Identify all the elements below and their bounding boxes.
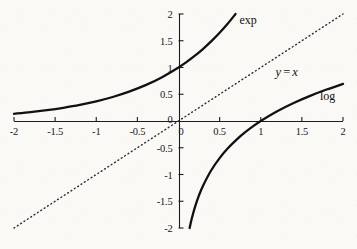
x-tick-label: 0.5	[213, 126, 226, 137]
y-tick-label: 2	[167, 9, 172, 20]
y-tick-label: -2	[164, 223, 172, 234]
x-tick-label: -1.5	[47, 126, 63, 137]
x-tick-label: -2	[10, 126, 18, 137]
identity-label: y=x	[276, 65, 298, 80]
x-tick-label: -1	[92, 126, 100, 137]
curve-log	[190, 84, 343, 228]
y-tick-label: 1	[167, 62, 172, 73]
exp-label: exp	[239, 13, 256, 28]
x-tick-label: 2	[340, 126, 345, 137]
x-tick-label: -0.5	[129, 126, 145, 137]
y-tick-label: 0.5	[160, 89, 173, 100]
y-tick-label: -0.5	[157, 142, 173, 153]
origin-label: 0	[167, 114, 172, 125]
y-tick-label: 1.5	[160, 35, 173, 46]
plot-canvas	[0, 0, 357, 249]
log-label: log	[320, 89, 335, 104]
x-tick-label: 1	[258, 126, 263, 137]
figure-exp-log-plot: -2-1.5-1-0.500.511.52 -2-1.5-1-0.50.511.…	[0, 0, 357, 249]
y-tick-label: -1	[164, 169, 172, 180]
x-tick-label: 1.5	[296, 126, 309, 137]
x-tick-label: 0	[178, 126, 183, 137]
y-tick-label: -1.5	[157, 196, 173, 207]
curve-exp	[14, 14, 236, 114]
identity-label-equals: =	[281, 65, 292, 79]
identity-label-x: x	[292, 65, 298, 79]
